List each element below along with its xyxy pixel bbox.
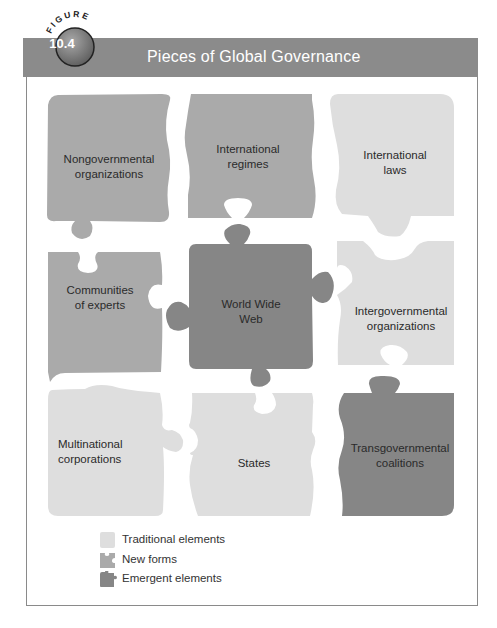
label-line: International — [336, 148, 454, 163]
emergent-swatch-icon — [100, 571, 118, 588]
label-international-laws: International laws — [336, 148, 454, 178]
piece-intergovernmental-organizations — [337, 241, 454, 365]
label-multinational-corporations: Multinational corporations — [58, 437, 148, 467]
legend-label: Emergent elements — [122, 572, 222, 584]
label-line: Intergovernmental — [345, 304, 457, 319]
label-line: regimes — [188, 157, 308, 172]
label-line: organizations — [52, 167, 166, 182]
label-line: coalitions — [342, 456, 458, 471]
label-line: corporations — [58, 452, 148, 467]
label-line: International — [188, 142, 308, 157]
label-line: Transgovernmental — [342, 441, 458, 456]
label-intergovernmental-organizations: Intergovernmental organizations — [345, 304, 457, 334]
legend-label: Traditional elements — [122, 533, 225, 545]
label-communities-of-experts: Communities of experts — [50, 283, 150, 313]
label-line: States — [200, 456, 308, 471]
new-forms-swatch-icon — [100, 552, 116, 569]
label-line: Nongovernmental — [52, 152, 166, 167]
label-states: States — [200, 456, 308, 471]
label-line: laws — [336, 163, 454, 178]
label-nongovernmental-organizations: Nongovernmental organizations — [52, 152, 166, 182]
label-line: Web — [195, 312, 307, 327]
label-transgovernmental-coalitions: Transgovernmental coalitions — [342, 441, 458, 471]
label-line: World Wide — [195, 297, 307, 312]
label-international-regimes: International regimes — [188, 142, 308, 172]
label-world-wide-web: World Wide Web — [195, 297, 307, 327]
label-line: Multinational — [58, 437, 148, 452]
piece-states — [189, 393, 315, 516]
piece-communities-of-experts — [48, 252, 162, 382]
label-line: Communities — [50, 283, 150, 298]
legend-label: New forms — [122, 553, 177, 565]
label-line: organizations — [345, 319, 457, 334]
label-line: of experts — [50, 298, 150, 313]
traditional-swatch-icon — [100, 532, 116, 549]
